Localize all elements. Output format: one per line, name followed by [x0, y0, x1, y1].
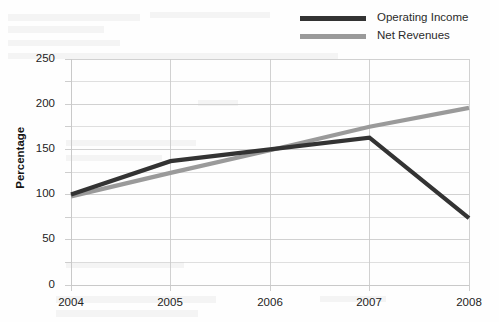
- line-chart-plot: [0, 0, 499, 322]
- x-tick-2006: 2006: [246, 297, 294, 309]
- legend-swatch-net-revenues: [300, 34, 366, 39]
- x-tick-2008: 2008: [445, 297, 493, 309]
- legend-swatch-operating-income: [300, 16, 366, 21]
- chart-legend: Operating Income Net Revenues: [300, 9, 496, 45]
- y-tick-0: 0: [13, 279, 55, 291]
- y-axis-title: Percentage: [15, 118, 27, 198]
- y-tick-100: 100: [13, 188, 55, 200]
- y-tick-150: 150: [13, 143, 55, 155]
- legend-label-net-revenues: Net Revenues: [377, 30, 450, 42]
- y-tick-200: 200: [13, 98, 55, 110]
- y-tick-250: 250: [13, 53, 55, 65]
- y-tick-50: 50: [13, 233, 55, 245]
- legend-item-net-revenues: Net Revenues: [300, 27, 496, 45]
- legend-item-operating-income: Operating Income: [300, 9, 496, 27]
- x-tick-2007: 2007: [345, 297, 393, 309]
- x-tick-2004: 2004: [47, 297, 95, 309]
- chart-screenshot: Percentage 250 200 150 100 50 0 2004 200…: [0, 0, 499, 322]
- legend-label-operating-income: Operating Income: [377, 12, 468, 24]
- x-tick-2005: 2005: [146, 297, 194, 309]
